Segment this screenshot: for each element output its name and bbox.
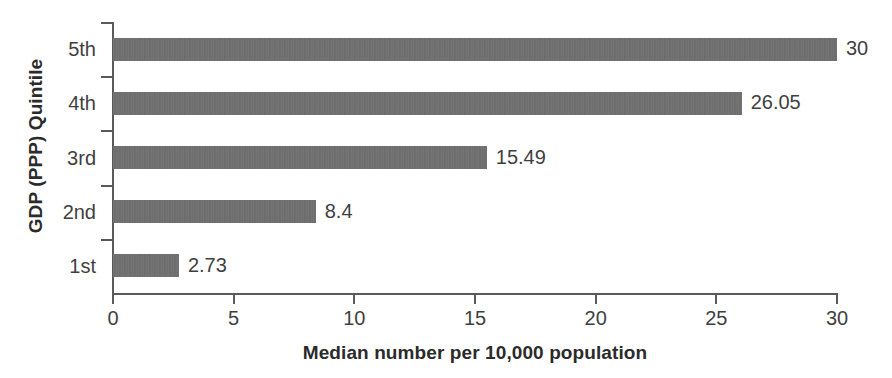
y-axis-tick	[101, 76, 113, 78]
x-axis-tick	[836, 293, 838, 304]
x-axis-tick	[595, 293, 597, 304]
x-axis-tick-label-0: 0	[107, 307, 118, 330]
y-axis-tick-label-3rd: 3rd	[67, 146, 96, 169]
x-axis-tick-label-5: 5	[228, 307, 239, 330]
y-axis-title: GDP (PPP) Quintile	[25, 6, 47, 286]
bar-4th[interactable]	[113, 92, 742, 115]
y-axis-tick	[101, 185, 113, 187]
x-axis-tick	[715, 293, 717, 304]
bar-3rd[interactable]	[113, 146, 487, 169]
bar-value-label-5th: 30	[846, 37, 868, 60]
x-axis-tick-label-10: 10	[343, 307, 365, 330]
bar-2nd[interactable]	[113, 200, 316, 223]
bar-1st[interactable]	[113, 254, 179, 277]
plot-area: 5th4th3rd2nd1st 051015202530 3026.0515.4…	[113, 22, 837, 293]
x-axis-tick-label-25: 25	[705, 307, 727, 330]
x-axis-tick-label-20: 20	[585, 307, 607, 330]
x-axis-tick	[112, 286, 114, 304]
x-axis-tick-label-30: 30	[826, 307, 848, 330]
bar-value-label-2nd: 8.4	[325, 200, 353, 223]
bar-value-label-1st: 2.73	[188, 254, 227, 277]
y-axis-tick-label-4th: 4th	[68, 92, 96, 115]
y-axis-tick-label-1st: 1st	[69, 254, 96, 277]
x-axis-tick	[233, 293, 235, 304]
bar-value-label-3rd: 15.49	[496, 146, 546, 169]
x-axis-title: Median number per 10,000 population	[113, 342, 837, 364]
y-axis-tick-label-5th: 5th	[68, 38, 96, 61]
y-axis-tick-label-2nd: 2nd	[63, 200, 96, 223]
y-axis-tick	[101, 130, 113, 132]
y-axis-tick-top	[101, 22, 113, 24]
bar-5th[interactable]	[113, 38, 837, 61]
y-axis-tick	[101, 239, 113, 241]
x-axis-tick	[353, 293, 355, 304]
x-axis-tick	[474, 293, 476, 304]
x-axis-tick-label-15: 15	[464, 307, 486, 330]
bar-value-label-4th: 26.05	[751, 91, 801, 114]
bar-chart-figure: GDP (PPP) Quintile Median number per 10,…	[0, 0, 892, 378]
